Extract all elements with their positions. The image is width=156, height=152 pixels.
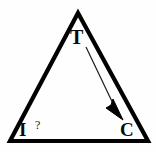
triangle-diagram: T I ? C <box>0 0 156 152</box>
vertex-label-t: T <box>70 27 83 47</box>
vertex-label-c: C <box>120 120 134 139</box>
arrowhead-icon <box>106 99 123 120</box>
vertex-label-i: I <box>19 120 26 139</box>
question-mark-annotation: ? <box>35 119 40 131</box>
